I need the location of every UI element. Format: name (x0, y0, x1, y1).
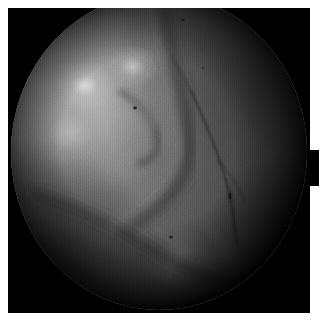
lower-right-shadow (11, 8, 307, 310)
specular-highlight-2 (11, 8, 307, 310)
debris-speck-3 (169, 236, 173, 239)
diagonal-fold-lower-left (31, 192, 239, 286)
central-fold-ridge-crest (111, 10, 178, 228)
inner-crease-upper-left-highlight (115, 84, 153, 130)
right-edge-notch (310, 150, 319, 186)
specular-highlight-3 (11, 8, 307, 310)
image-frame (8, 8, 310, 313)
right-lobe-shadow (11, 8, 307, 310)
scanline-texture (11, 8, 307, 310)
tissue-feature-overlay (11, 8, 307, 310)
lower-left-shadow (11, 8, 307, 310)
sensor-noise-texture (11, 8, 307, 310)
upper-left-tissue-mass (11, 8, 307, 310)
debris-speck-4 (181, 19, 184, 22)
field-of-view-vignette (11, 8, 307, 310)
circular-field-of-view (11, 8, 307, 310)
striation-2 (59, 144, 115, 184)
tissue-base-shading (11, 8, 307, 310)
vessel-main (191, 90, 237, 246)
specular-highlight-1 (11, 8, 307, 310)
vessel-branch-3 (171, 56, 191, 92)
debris-speck-5 (202, 67, 205, 69)
inner-crease-upper-left (119, 90, 158, 164)
debris-speck-1 (133, 107, 137, 110)
central-fold-ridge-shadow (121, 8, 189, 232)
diagonal-fold-highlight (33, 184, 153, 240)
vessel-branch-1 (217, 160, 245, 202)
endoscopic-image-viewer: Endoscopy (0, 0, 323, 325)
specular-highlight-4 (11, 8, 307, 310)
striation-1 (67, 114, 119, 154)
striation-3 (207, 224, 237, 280)
debris-speck-2 (229, 193, 232, 200)
vessel-branch-2 (225, 178, 234, 230)
